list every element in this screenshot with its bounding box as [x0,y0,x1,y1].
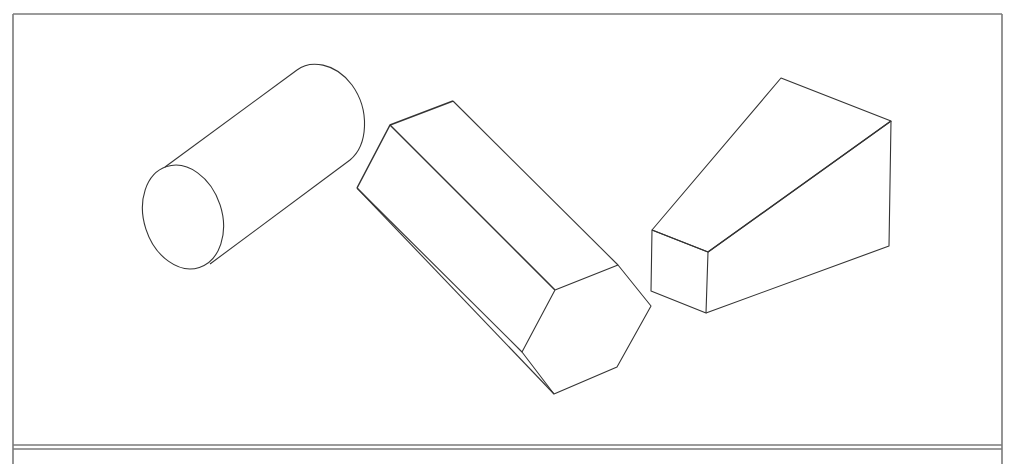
drawing-frame [13,14,1002,464]
cylinder-back-ellipse-arc [297,64,365,160]
wedge-shape [651,78,891,313]
hexagonal-prism-shape [357,101,651,394]
wedge-right-face [706,121,891,313]
cylinder-bottom-line [210,160,350,264]
cylinder-front-ellipse [130,155,237,280]
prism-back-edges [357,101,453,188]
prism-front-hexagon [522,265,651,394]
cylinder-top-line [165,70,297,167]
wedge-top-face [652,78,891,252]
wedge-ridge-edge [708,121,891,252]
prism-edge-top [453,101,618,265]
diagram-canvas [0,0,1017,464]
wedge-front-face [651,230,708,313]
cylinder-shape [130,64,365,279]
prism-edge-lower [357,188,522,352]
prism-edge-bottom [357,188,554,394]
prism-edge-mid [390,125,555,290]
